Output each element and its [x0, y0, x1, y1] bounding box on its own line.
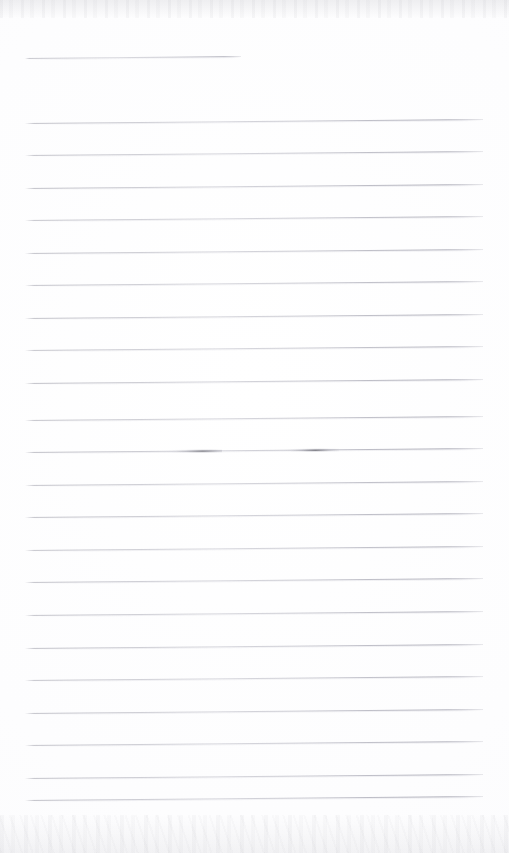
right-margin — [483, 0, 509, 853]
writing-area[interactable] — [25, 40, 483, 800]
scan-noise-bottom-icon — [0, 815, 509, 853]
scan-noise-top-icon — [0, 0, 509, 18]
left-margin — [0, 0, 25, 853]
page-transcription — [25, 40, 26, 41]
scanned-page — [0, 0, 509, 853]
